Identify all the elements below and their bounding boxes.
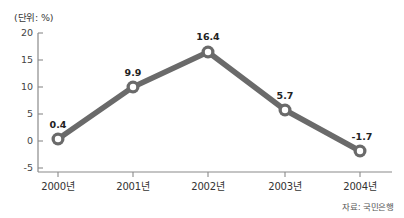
x-tick-label-2002: 2002년 [191,181,225,192]
source-note: 자료: 국민은행 [342,200,394,212]
line-chart-plot: 20 15 10 5 0 -5 [0,0,404,218]
data-label-2003: 5.7 [277,90,294,101]
data-point-marker-2001 [127,81,140,94]
y-tick-label-20: 20 [21,27,33,38]
x-tick-label-2000: 2000년 [41,181,75,192]
data-label-2004: -1.7 [352,131,373,142]
chart-card: (단위: %) 20 15 10 5 0 -5 [0,0,404,218]
y-tick-label--5: -5 [24,162,33,173]
data-point-marker-2002 [202,46,215,59]
x-tick-label-2004: 2004년 [343,181,377,192]
data-label-2000: 0.4 [50,119,67,130]
data-point-marker-2000 [52,133,65,146]
y-tick-label-5: 5 [27,108,33,119]
data-point-marker-2004 [354,145,367,158]
y-tick-marks [38,33,43,168]
y-tick-label-15: 15 [21,54,33,65]
series-line [58,52,360,151]
y-tick-label-0: 0 [27,135,33,146]
x-tick-marks [58,172,360,177]
y-tick-label-10: 10 [21,81,33,92]
data-label-2002: 16.4 [196,31,220,42]
x-tick-label-2001: 2001년 [116,181,150,192]
data-point-marker-2003 [279,104,292,117]
x-tick-label-2003: 2003년 [268,181,302,192]
data-label-2001: 9.9 [125,67,142,78]
